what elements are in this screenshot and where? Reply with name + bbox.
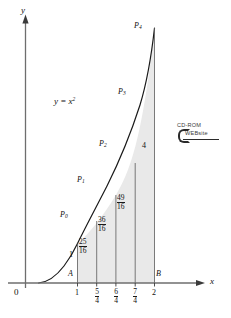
curve-equation-label: y = x2	[54, 97, 75, 106]
rect-value-3-num: 36	[98, 216, 106, 224]
x-tick-label-2: 5 4	[91, 288, 103, 307]
point-index-p4: 4	[139, 24, 142, 30]
endpoint-label-b: B	[156, 270, 161, 278]
endpoint-label-a: A	[68, 270, 73, 278]
rect-value-2-den: 16	[79, 246, 87, 255]
rect-value-3: 36 16	[98, 216, 106, 234]
rect-value-5: 4	[142, 142, 146, 150]
point-index-p0: 0	[65, 213, 68, 219]
curve-equation-text: y = x	[54, 96, 73, 106]
origin-label: 0	[14, 288, 19, 297]
point-label-p1: P1	[77, 176, 85, 185]
x-tick-label-1: 1	[75, 289, 79, 297]
rect-value-2: 25 16	[79, 238, 87, 256]
point-label-p3: P3	[118, 88, 126, 97]
x-tick-label-4-num: 7	[133, 288, 137, 296]
rect-value-1: 1	[69, 251, 73, 259]
figure-container: y x 0 y = x2 P0 P1 P2 P3 P4 A B 1 25 16 …	[0, 0, 231, 318]
point-label-p0: P0	[60, 211, 68, 220]
x-axis-label: x	[210, 277, 214, 286]
x-tick-label-4: 7 4	[129, 288, 141, 307]
x-axis-arrowhead	[196, 280, 205, 286]
rect-value-2-num: 25	[79, 238, 87, 246]
x-tick-label-3-den: 4	[114, 296, 118, 305]
point-index-p2: 2	[104, 142, 107, 148]
curve-equation-exponent: 2	[73, 96, 76, 102]
point-index-p3: 3	[123, 90, 126, 96]
x-tick-label-2-den: 4	[95, 296, 99, 305]
point-label-p2: P2	[99, 140, 107, 149]
x-tick-label-3: 6 4	[110, 288, 122, 307]
rect-value-4-num: 49	[117, 194, 125, 202]
rect-value-3-den: 16	[98, 224, 106, 233]
y-axis-label: y	[21, 6, 25, 15]
rect-value-4-den: 16	[117, 202, 125, 211]
point-index-p1: 1	[82, 178, 85, 184]
x-tick-label-5: 2	[152, 289, 156, 297]
x-tick-label-2-num: 5	[95, 288, 99, 296]
x-tick-label-4-den: 4	[133, 296, 137, 305]
rect-value-4: 49 16	[117, 194, 125, 212]
point-label-p4: P4	[134, 22, 142, 31]
y-axis-arrowhead	[22, 15, 28, 24]
cdrom-label: CD-ROM	[177, 122, 201, 128]
disc-icon	[178, 129, 190, 143]
graph-canvas	[0, 0, 231, 318]
x-tick-label-3-num: 6	[114, 288, 118, 296]
cdrom-website-callout[interactable]: CD-ROM WEBsite	[171, 122, 229, 148]
